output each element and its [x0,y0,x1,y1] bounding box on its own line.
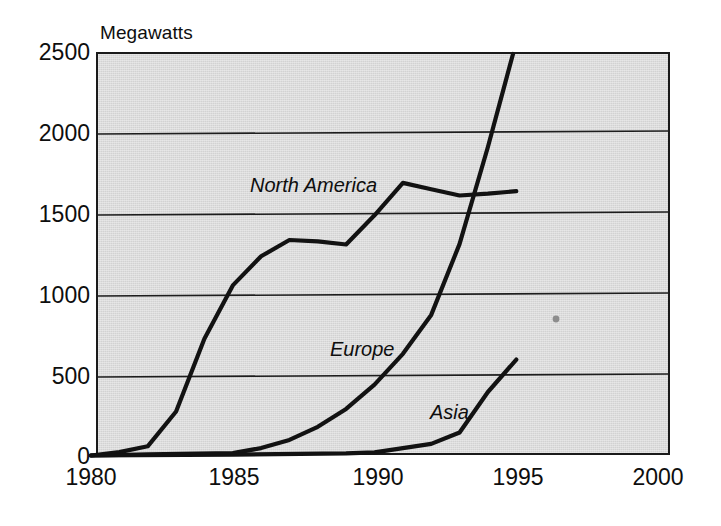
series-label-north-america: North America [250,175,377,195]
y-tick-label: 1500 [12,203,90,226]
y-tick-label: 500 [12,365,90,388]
x-tick-label: 1990 [352,466,403,489]
y-axis-title: Megawatts [100,22,193,44]
y-tick-label: 2000 [12,122,90,145]
chart-figure: Megawatts 2500 2000 1500 1000 500 0 1980… [0,0,721,526]
plot-area [96,52,670,455]
plot-background-texture [98,54,668,453]
y-tick-label: 1000 [12,284,90,307]
x-tick-label: 1985 [208,466,259,489]
y-tick-label: 2500 [12,41,90,64]
x-tick-label: 1995 [492,466,543,489]
y-axis-tick-labels: 2500 2000 1500 1000 500 0 [0,0,90,526]
series-label-europe: Europe [330,339,395,359]
x-tick-label: 1980 [65,466,116,489]
series-label-asia: Asia [430,402,469,422]
x-tick-label: 2000 [632,466,683,489]
